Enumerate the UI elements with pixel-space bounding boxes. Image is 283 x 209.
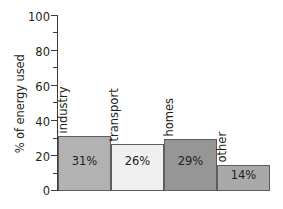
plot-area: industry 31% transport 26% homes 29% oth…: [58, 15, 270, 191]
bar-label-transport: transport: [109, 88, 121, 141]
y-tick-major-80: [51, 50, 57, 51]
bar-chart: % of energy used 100 80 60 40 20 0 indus…: [0, 0, 283, 209]
y-tick-minor-90: [53, 32, 57, 33]
y-tick-major-20: [51, 155, 57, 156]
bar-value-industry: 31%: [58, 156, 111, 168]
y-tick-label-80: 80: [22, 47, 50, 59]
y-tick-major-0: [51, 190, 57, 191]
bar-value-other: 14%: [217, 170, 270, 182]
bar-value-transport: 26%: [111, 156, 164, 168]
y-tick-label-100: 100: [22, 12, 50, 24]
bar-label-industry: industry: [58, 86, 70, 133]
bar-label-other: other: [217, 131, 229, 162]
y-tick-major-100: [51, 15, 57, 16]
y-tick-minor-70: [53, 67, 57, 68]
y-tick-label-60: 60: [22, 82, 50, 94]
bar-label-homes: homes: [164, 97, 176, 136]
bar-transport[interactable]: [111, 144, 164, 191]
y-tick-label-0: 0: [22, 186, 50, 198]
y-tick-label-20: 20: [22, 152, 50, 164]
y-tick-label-40: 40: [22, 117, 50, 129]
y-tick-minor-30: [53, 138, 57, 139]
y-tick-minor-10: [53, 173, 57, 174]
bar-value-homes: 29%: [164, 156, 217, 168]
y-axis-tick-labels: 100 80 60 40 20 0: [22, 0, 50, 209]
